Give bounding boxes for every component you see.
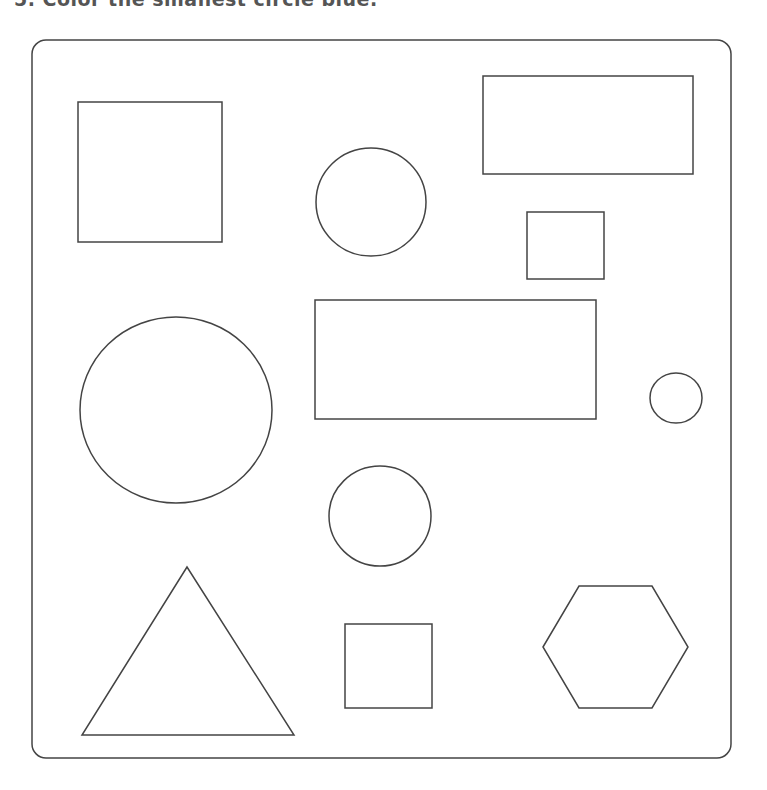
circle-large-left[interactable] xyxy=(80,317,272,503)
square-top-left[interactable] xyxy=(78,102,222,242)
square-bottom-middle[interactable] xyxy=(345,624,432,708)
circle-top-middle[interactable] xyxy=(316,148,426,256)
square-small-right[interactable] xyxy=(527,212,604,279)
rectangle-top-right[interactable] xyxy=(483,76,693,174)
hexagon-bottom-right[interactable] xyxy=(543,586,688,708)
shape-group xyxy=(78,76,702,735)
circle-smallest-right[interactable] xyxy=(650,373,702,423)
rectangle-middle[interactable] xyxy=(315,300,596,419)
shapes-worksheet xyxy=(0,0,767,790)
triangle-bottom-left[interactable] xyxy=(82,567,294,735)
worksheet-frame xyxy=(32,40,731,758)
circle-lower-middle[interactable] xyxy=(329,466,431,566)
